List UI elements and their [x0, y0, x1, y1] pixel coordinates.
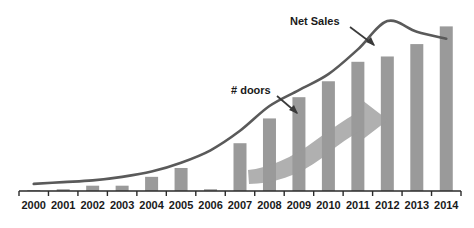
- x-axis-tick-labels: 2000200120022003200420052006200720082009…: [21, 199, 459, 211]
- x-tick-label-2002: 2002: [80, 199, 104, 211]
- x-tick-label-2012: 2012: [375, 199, 399, 211]
- chart-container: 2000200120022003200420052006200720082009…: [0, 0, 474, 228]
- net-sales-annotation-label: Net Sales: [290, 15, 340, 27]
- x-tick-label-2005: 2005: [169, 199, 193, 211]
- bar-2005: [175, 168, 188, 191]
- x-tick-label-2000: 2000: [21, 199, 45, 211]
- doors-annotation-label: # doors: [231, 84, 271, 96]
- bar-2013: [410, 44, 423, 191]
- bar-series-doors: [27, 26, 453, 191]
- x-tick-label-2011: 2011: [346, 199, 370, 211]
- net-sales-annotation: Net Sales: [290, 15, 375, 46]
- x-tick-label-2014: 2014: [434, 199, 459, 211]
- bar-2007: [234, 143, 247, 191]
- x-tick-label-2010: 2010: [316, 199, 340, 211]
- x-tick-label-2004: 2004: [139, 199, 164, 211]
- x-tick-label-2008: 2008: [257, 199, 281, 211]
- x-tick-label-2009: 2009: [287, 199, 311, 211]
- x-tick-label-2013: 2013: [405, 199, 429, 211]
- x-tick-label-2006: 2006: [198, 199, 222, 211]
- bar-2014: [440, 26, 453, 191]
- x-tick-label-2003: 2003: [110, 199, 134, 211]
- x-axis: [19, 191, 461, 196]
- x-tick-label-2007: 2007: [228, 199, 252, 211]
- combo-bar-line-chart: 2000200120022003200420052006200720082009…: [0, 0, 474, 228]
- x-tick-label-2001: 2001: [51, 199, 75, 211]
- bar-2004: [145, 177, 158, 191]
